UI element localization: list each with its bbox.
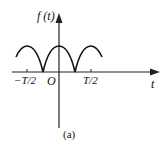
y-axis-arrow-icon <box>56 13 63 23</box>
tick-label-pos: T/2 <box>83 74 98 86</box>
origin-label: O <box>47 74 56 89</box>
x-axis-label: t <box>151 77 154 92</box>
tick-label-neg: −T/2 <box>14 74 36 86</box>
x-axis-arrow-icon <box>150 69 160 76</box>
y-axis-label: f (t) <box>37 9 55 24</box>
figure-caption: (a) <box>63 128 75 140</box>
